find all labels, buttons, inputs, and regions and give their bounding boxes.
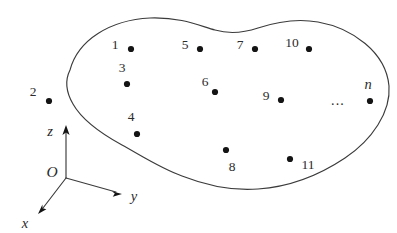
point-dot bbox=[223, 147, 229, 153]
point-dot bbox=[46, 98, 52, 104]
y-axis-arrowhead bbox=[112, 191, 122, 197]
axis-label-z: z bbox=[47, 124, 53, 139]
ellipsis-label: ... bbox=[331, 94, 345, 108]
axis-label-y: y bbox=[131, 189, 137, 204]
point-dot bbox=[212, 89, 218, 95]
point-label-9: 9 bbox=[263, 89, 270, 103]
point-dot bbox=[306, 46, 312, 52]
point-dot bbox=[124, 81, 130, 87]
point-label-11: 11 bbox=[302, 158, 315, 172]
point-dot bbox=[287, 156, 293, 162]
diagram-canvas bbox=[0, 0, 397, 233]
point-dot bbox=[134, 131, 140, 137]
axis-label-origin: O bbox=[46, 164, 57, 180]
point-dot bbox=[278, 97, 284, 103]
axis-label-x: x bbox=[22, 216, 28, 231]
point-label-7: 7 bbox=[237, 38, 244, 52]
y-axis-line bbox=[66, 178, 116, 192]
point-label-10: 10 bbox=[285, 36, 299, 50]
point-label-1: 1 bbox=[112, 38, 119, 52]
point-dot bbox=[252, 46, 258, 52]
point-label-8: 8 bbox=[229, 160, 236, 174]
point-label-n: n bbox=[364, 77, 371, 92]
point-label-6: 6 bbox=[202, 75, 209, 89]
point-dot bbox=[367, 98, 373, 104]
point-label-2: 2 bbox=[30, 85, 37, 99]
point-label-5: 5 bbox=[182, 38, 189, 52]
point-label-3: 3 bbox=[119, 61, 126, 75]
point-dots-group bbox=[46, 46, 373, 162]
point-dot bbox=[197, 46, 203, 52]
point-label-4: 4 bbox=[128, 110, 135, 124]
point-dot bbox=[128, 46, 134, 52]
figure-container: 1 2 3 4 5 6 7 8 9 10 11 n ... z y x O bbox=[0, 0, 397, 233]
x-axis-line bbox=[43, 178, 66, 208]
